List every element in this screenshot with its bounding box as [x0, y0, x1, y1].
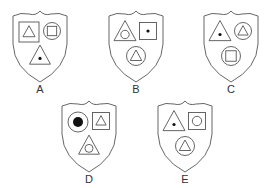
shields-diagram: ABCDE — [0, 0, 272, 188]
dot-inner-shape — [172, 123, 175, 126]
shield-d: D — [62, 101, 116, 185]
dot-inner-shape — [38, 57, 41, 60]
shield-c: C — [204, 11, 258, 95]
shield-b: B — [109, 11, 163, 95]
dot-large-inner-shape — [73, 117, 83, 127]
dot-inner-shape — [218, 33, 221, 36]
shield-label: B — [132, 83, 139, 95]
shield-e: E — [158, 101, 212, 185]
shield-label: D — [85, 173, 93, 185]
shield-a: A — [13, 11, 67, 95]
shield-label: E — [181, 173, 188, 185]
shield-label: C — [227, 83, 235, 95]
shield-outline — [62, 101, 116, 172]
shield-label: A — [36, 83, 44, 95]
dot-inner-shape — [146, 29, 149, 32]
